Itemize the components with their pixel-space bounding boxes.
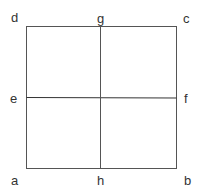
label-g: g xyxy=(97,11,104,26)
label-a: a xyxy=(11,173,19,188)
label-h: h xyxy=(97,173,104,188)
label-f: f xyxy=(184,91,188,106)
label-b: b xyxy=(184,173,191,188)
label-e: e xyxy=(10,91,17,106)
label-c: c xyxy=(183,11,190,26)
line-e-f xyxy=(27,98,177,99)
label-d: d xyxy=(11,10,18,25)
square-diagram: d g c e f a h b xyxy=(0,0,203,192)
